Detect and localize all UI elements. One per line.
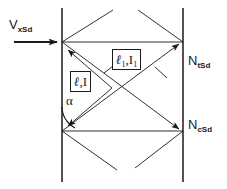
top-left-outgoing-ray bbox=[62, 10, 113, 42]
boxed-label-current: I bbox=[83, 74, 87, 89]
boxed-label-1-symbol: ℓ bbox=[116, 52, 122, 67]
bottom-left-outgoing-ray bbox=[62, 131, 117, 170]
boxed-label-length-current: ℓ,I bbox=[70, 71, 91, 92]
label-angle-alpha: α bbox=[66, 94, 73, 107]
top-right-outgoing-ray bbox=[138, 10, 183, 42]
diagram-vector-layer bbox=[0, 0, 227, 189]
diagram-canvas: VxSd NtSd NcSd α ℓ1,I1 ℓ,I bbox=[0, 0, 227, 189]
label-top-right-node-subscript: tSd bbox=[197, 61, 210, 70]
leader-line-upper-box bbox=[155, 67, 167, 78]
label-top-right-node: NtSd bbox=[188, 52, 210, 68]
label-bottom-right-node-base: N bbox=[188, 117, 197, 132]
boxed-label-length-current-1: ℓ1,I1 bbox=[112, 49, 141, 70]
boxed-label-1-current-subscript: 1 bbox=[133, 60, 137, 69]
label-incident-velocity-base: V bbox=[9, 17, 18, 32]
label-bottom-right-node: NcSd bbox=[188, 116, 212, 132]
boxed-label-1-symbol-subscript: 1 bbox=[122, 60, 126, 69]
reflected-ray-to-left-lower bbox=[68, 88, 112, 126]
angle-arc-alpha bbox=[62, 107, 75, 128]
label-incident-velocity-subscript: xSd bbox=[18, 25, 33, 34]
bottom-right-outgoing-ray bbox=[135, 131, 183, 168]
label-bottom-right-node-subscript: cSd bbox=[197, 125, 212, 134]
label-top-right-node-base: N bbox=[188, 53, 197, 68]
label-incident-velocity: VxSd bbox=[9, 16, 32, 32]
